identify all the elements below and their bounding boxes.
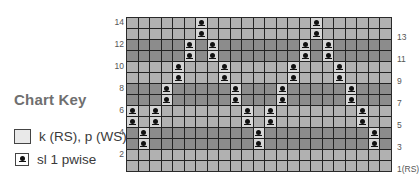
knit-cell [150,84,161,94]
slip-dot-icon [280,97,285,102]
knit-cell [288,51,299,61]
knit-cell [311,128,322,138]
knit-cell [185,73,196,83]
key-item-knit: k (RS), p (WS) [14,129,127,144]
slip-stitch-cell [173,62,184,72]
knit-cell [208,117,219,127]
slip-stitch-cell [334,73,345,83]
knit-cell [311,62,322,72]
slip-stitch-cell [139,128,150,138]
slip-stitch-cell [357,117,368,127]
knit-cell [288,161,299,171]
knit-cell [254,150,265,160]
knit-cell [369,29,380,39]
knit-cell [219,40,230,50]
slip-stitch-cell [127,117,138,127]
knit-cell [150,18,161,28]
knit-cell [150,73,161,83]
knit-cell [288,150,299,160]
knit-cell [196,51,207,61]
knit-cell [254,106,265,116]
knit-cell [369,95,380,105]
knit-cell [196,150,207,160]
knit-cell [127,150,138,160]
slip-stitch-cell [150,106,161,116]
knit-cell [127,161,138,171]
knit-cell [231,117,242,127]
slip-dot-icon [326,53,331,58]
knit-cell [208,106,219,116]
slip-stitch-cell [300,51,311,61]
knit-cell [311,95,322,105]
key-item-slip: sl 1 pwise [14,152,96,167]
knit-cell [231,150,242,160]
knit-cell [380,18,391,28]
knit-cell [334,117,345,127]
knit-cell [185,117,196,127]
slip-dot-icon [141,141,146,146]
slip-stitch-cell [185,40,196,50]
knit-cell [196,106,207,116]
knit-cell [311,51,322,61]
knit-cell [323,29,334,39]
knit-cell [208,161,219,171]
slip-stitch-cell [196,29,207,39]
slip-stitch-cell [357,106,368,116]
slip-stitch-cell [242,106,253,116]
knit-cell [185,139,196,149]
row-label: 13 [397,32,406,42]
knit-cell [277,40,288,50]
slip-stitch-cell [219,62,230,72]
knit-cell [127,73,138,83]
knit-cell [288,128,299,138]
slip-dot-icon [187,53,192,58]
knit-cell [231,29,242,39]
knit-cell [254,95,265,105]
knit-cell [162,106,173,116]
knit-cell [173,95,184,105]
knit-cell [334,128,345,138]
slip-dot-icon [303,42,308,47]
knit-cell [196,139,207,149]
knit-cell [323,62,334,72]
knit-cell [185,150,196,160]
knit-cell [300,150,311,160]
knit-cell [242,161,253,171]
knit-cell [254,117,265,127]
slip-stitch-cell [265,106,276,116]
knit-cell [139,40,150,50]
knit-cell [162,18,173,28]
knit-cell [334,51,345,61]
slip-dot-icon [280,86,285,91]
row-label: 7 [397,98,402,108]
knit-cell [162,73,173,83]
slip-stitch-cell [369,128,380,138]
knit-cell [346,40,357,50]
knit-cell [162,150,173,160]
knit-cell [311,84,322,94]
knit-cell [208,18,219,28]
knit-cell [380,73,391,83]
knit-cell [323,161,334,171]
knit-cell [231,18,242,28]
knit-cell [231,40,242,50]
knit-cell [369,117,380,127]
knit-cell [288,117,299,127]
knit-cell [369,51,380,61]
slip-stitch-cell [231,95,242,105]
knit-cell [150,62,161,72]
knit-cell [380,40,391,50]
knit-cell [242,40,253,50]
knit-cell [139,95,150,105]
empty-square-icon [14,129,31,144]
slip-dot-icon [222,75,227,80]
knit-cell [323,128,334,138]
knit-cell [380,51,391,61]
knit-cell [277,18,288,28]
slip-stitch-cell [323,51,334,61]
slip-dot-icon [256,130,261,135]
knit-cell [208,95,219,105]
knit-cell [231,161,242,171]
knit-cell [231,139,242,149]
slip-dot-icon [337,75,342,80]
